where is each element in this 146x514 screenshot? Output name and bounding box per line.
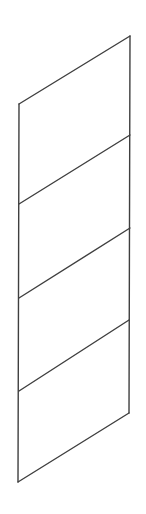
diagram-lines bbox=[18, 36, 130, 482]
panel-diagram bbox=[0, 0, 146, 514]
bottom-edge-line bbox=[18, 413, 129, 482]
top-edge-line bbox=[19, 36, 130, 104]
panel-divider-line bbox=[19, 320, 129, 391]
panel-divider-line bbox=[19, 135, 130, 204]
panel-divider-line bbox=[19, 228, 130, 298]
right-edge-line bbox=[129, 36, 130, 413]
left-edge-line bbox=[18, 104, 19, 482]
